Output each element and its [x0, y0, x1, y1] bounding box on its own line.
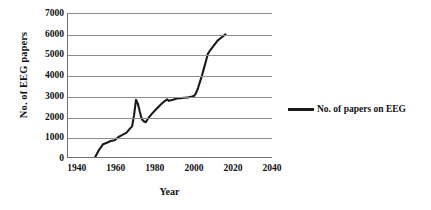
y-tick-label-2000: 2000 — [26, 112, 64, 122]
y-tick-label-5000: 5000 — [26, 49, 64, 59]
y-tick-label-3000: 3000 — [26, 91, 64, 101]
eeg-papers-line-chart: No. of EEG papers 7000600050004000300020… — [0, 0, 431, 210]
plot-area — [67, 13, 272, 158]
x-tick-label-1960: 1960 — [96, 162, 136, 174]
x-tick-label-2000: 2000 — [174, 162, 214, 174]
legend-label: No. of papers on EEG — [317, 104, 406, 115]
x-axis-title: Year — [67, 186, 272, 198]
x-tick-label-1980: 1980 — [135, 162, 175, 174]
x-tick-label-2040: 2040 — [252, 162, 292, 174]
y-tick-label-6000: 6000 — [26, 29, 64, 39]
gridline-y-2000 — [68, 118, 272, 119]
chart-legend: No. of papers on EEG — [288, 104, 406, 115]
x-axis-tick-labels: 194019601980200020202040 — [67, 162, 272, 176]
gridline-y-5000 — [68, 55, 272, 56]
gridline-y-1000 — [68, 138, 272, 139]
x-tick-label-2020: 2020 — [213, 162, 253, 174]
x-tick-label-1940: 1940 — [57, 162, 97, 174]
y-tick-label-7000: 7000 — [26, 8, 64, 18]
y-tick-label-4000: 4000 — [26, 70, 64, 80]
gridline-y-3000 — [68, 97, 272, 98]
legend-line-swatch — [288, 108, 314, 110]
y-tick-label-1000: 1000 — [26, 132, 64, 142]
gridline-y-6000 — [68, 35, 272, 36]
y-axis-tick-labels: 70006000500040003000200010000 — [26, 6, 64, 164]
gridline-y-4000 — [68, 76, 272, 77]
